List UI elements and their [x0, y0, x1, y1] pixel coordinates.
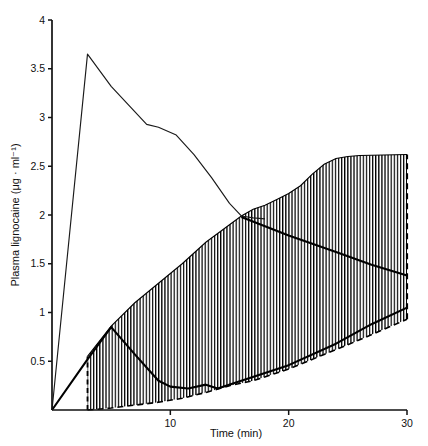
y-tick-label: 3: [39, 111, 45, 123]
x-axis-title: Time (min): [210, 427, 262, 439]
y-tick-label: 3.5: [30, 62, 45, 74]
y-tick-label: 2.5: [30, 160, 45, 172]
plot-area: [52, 54, 407, 410]
y-tick-label: 4: [39, 14, 45, 26]
y-tick-label: 1: [39, 306, 45, 318]
chart-canvas: 0.511.522.533.54 102030 Time (min) Plasm…: [0, 0, 428, 446]
x-axis-ticks: 102030: [164, 410, 413, 429]
y-axis-title: Plasma lignocaine (μg · ml⁻¹): [9, 143, 21, 286]
x-tick-label: 30: [401, 417, 413, 429]
vertical-hatched-band: [88, 155, 408, 410]
x-tick-label: 20: [283, 417, 295, 429]
lignocaine-plasma-concentration-chart: 0.511.522.533.54 102030 Time (min) Plasm…: [0, 0, 428, 446]
y-tick-label: 2: [39, 209, 45, 221]
x-tick-label: 10: [164, 417, 176, 429]
y-tick-label: 1.5: [30, 257, 45, 269]
y-tick-label: 0.5: [30, 355, 45, 367]
y-axis-ticks: 0.511.522.533.54: [30, 14, 52, 367]
